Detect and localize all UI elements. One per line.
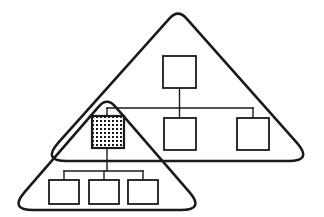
node-box[interactable]	[89, 180, 119, 204]
node-upper-right[interactable]	[237, 118, 269, 150]
node-leaf-right[interactable]	[128, 180, 158, 204]
diagram-canvas	[0, 0, 324, 217]
node-box-shaded[interactable]	[92, 116, 124, 148]
node-box[interactable]	[237, 118, 269, 150]
node-box[interactable]	[163, 56, 196, 88]
node-leaf-left[interactable]	[49, 180, 79, 204]
node-layer	[49, 56, 269, 204]
node-root[interactable]	[163, 56, 196, 88]
diagram-svg	[0, 0, 324, 217]
node-upper-middle[interactable]	[164, 118, 196, 150]
node-box[interactable]	[128, 180, 158, 204]
node-box[interactable]	[49, 180, 79, 204]
node-shared-gateway[interactable]	[92, 116, 124, 148]
node-box[interactable]	[164, 118, 196, 150]
node-leaf-middle[interactable]	[89, 180, 119, 204]
